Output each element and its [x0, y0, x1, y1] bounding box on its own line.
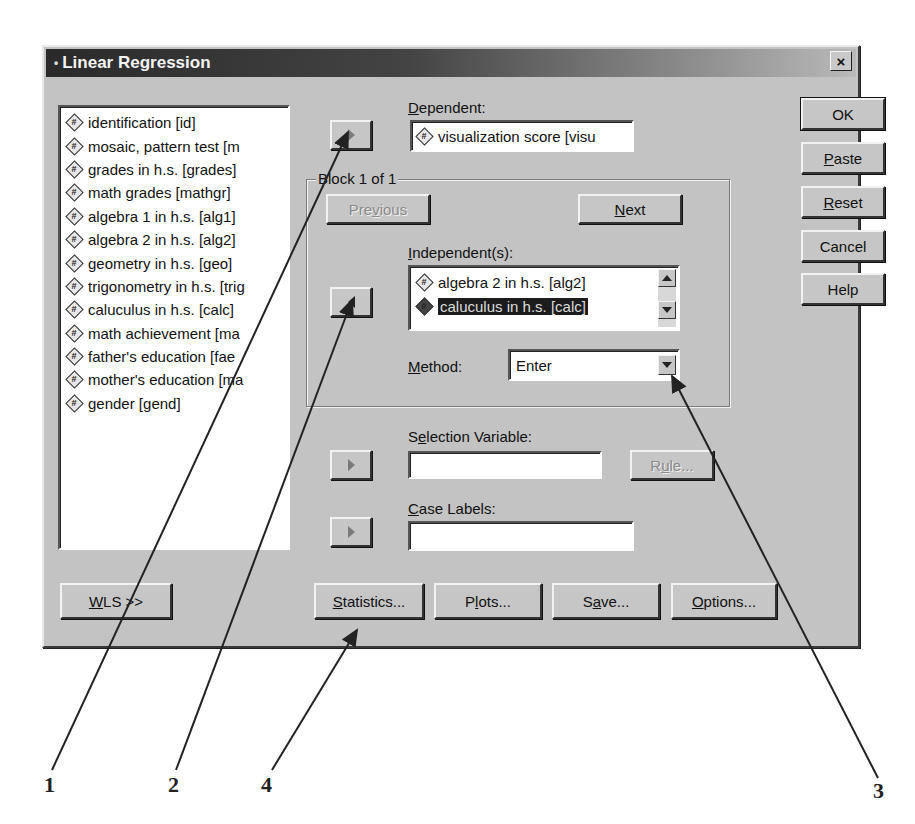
scroll-down-button[interactable]: [658, 301, 676, 319]
method-dropdown-button[interactable]: [658, 355, 676, 375]
method-label: Method:: [408, 358, 462, 375]
independents-label: Independent(s):: [408, 244, 513, 261]
rule-button[interactable]: Rule...: [630, 450, 714, 480]
method-select[interactable]: Enter: [508, 349, 680, 381]
numeric-scale-icon: #: [66, 302, 82, 318]
numeric-scale-icon: #: [66, 372, 82, 388]
arrow-left-icon: [348, 296, 355, 308]
callout-1: 1: [44, 772, 55, 798]
numeric-scale-icon: #: [66, 395, 82, 411]
variable-list-item[interactable]: #algebra 1 in h.s. [alg1]: [62, 205, 286, 228]
previous-button[interactable]: Previous: [326, 194, 430, 224]
independents-scrollbar[interactable]: [658, 269, 676, 327]
numeric-scale-icon: #: [66, 208, 82, 224]
plots-button[interactable]: Plots...: [434, 583, 542, 619]
numeric-scale-icon: #: [66, 349, 82, 365]
numeric-scale-icon: #: [66, 115, 82, 131]
cancel-button[interactable]: Cancel: [801, 230, 885, 262]
arrow-right-icon: [348, 459, 355, 471]
callout-3: 3: [873, 778, 884, 804]
move-to-dependent-button[interactable]: [330, 120, 372, 150]
help-button[interactable]: Help: [801, 273, 885, 305]
numeric-scale-icon: #: [66, 278, 82, 294]
variable-list-item[interactable]: #gender [gend]: [62, 392, 286, 415]
chevron-down-icon: [662, 362, 672, 368]
reset-button[interactable]: Reset: [801, 186, 885, 218]
arrow-right-icon: [348, 129, 355, 141]
move-from-independents-button[interactable]: [330, 287, 372, 317]
move-to-case-labels-button[interactable]: [330, 517, 372, 547]
variable-list-item[interactable]: #caluculus in h.s. [calc]: [62, 298, 286, 321]
numeric-scale-icon: #: [66, 185, 82, 201]
independents-list[interactable]: #algebra 2 in h.s. [alg2]#caluculus in h…: [408, 265, 680, 331]
move-to-selection-variable-button[interactable]: [330, 450, 372, 480]
variable-list-item[interactable]: #algebra 2 in h.s. [alg2]: [62, 228, 286, 251]
options-button[interactable]: Options...: [671, 583, 777, 619]
variable-list-item[interactable]: #geometry in h.s. [geo]: [62, 251, 286, 274]
numeric-scale-icon: #: [66, 138, 82, 154]
variable-list[interactable]: #identification [id]#mosaic, pattern tes…: [58, 105, 290, 550]
scroll-up-button[interactable]: [658, 269, 676, 287]
close-icon: ×: [837, 53, 846, 70]
numeric-scale-icon: #: [66, 325, 82, 341]
ok-button[interactable]: OK: [801, 98, 885, 130]
close-button[interactable]: ×: [830, 51, 852, 71]
next-button[interactable]: Next: [578, 194, 682, 224]
numeric-scale-icon: #: [66, 255, 82, 271]
variable-list-item[interactable]: #mosaic, pattern test [m: [62, 134, 286, 157]
case-labels-label: Case Labels:: [408, 500, 496, 517]
variable-list-item[interactable]: #mother's education [ma: [62, 368, 286, 391]
numeric-scale-icon: #: [66, 161, 82, 177]
selection-variable-field[interactable]: [408, 451, 602, 479]
independent-list-item[interactable]: #caluculus in h.s. [calc]: [412, 294, 656, 317]
dependent-value: visualization score [visu: [438, 128, 596, 145]
variable-list-item[interactable]: #grades in h.s. [grades]: [62, 158, 286, 181]
callout-2: 2: [168, 772, 179, 798]
arrow-up-icon: [662, 275, 672, 281]
numeric-scale-icon: #: [416, 275, 432, 291]
variable-list-item[interactable]: #math achievement [ma: [62, 322, 286, 345]
wls-button[interactable]: WLS >>: [60, 583, 172, 619]
arrow-down-icon: [662, 307, 672, 313]
case-labels-field[interactable]: [408, 521, 634, 551]
callout-4: 4: [261, 772, 272, 798]
block-legend: Block 1 of 1: [316, 170, 398, 187]
arrow-right-icon: [348, 526, 355, 538]
window-title: Linear Regression: [62, 53, 210, 73]
variable-list-item[interactable]: #identification [id]: [62, 111, 286, 134]
statistics-button[interactable]: Statistics...: [314, 583, 424, 619]
variable-list-item[interactable]: #father's education [fae: [62, 345, 286, 368]
numeric-scale-icon: #: [416, 298, 432, 314]
numeric-scale-icon: #: [66, 232, 82, 248]
method-value: Enter: [516, 357, 552, 374]
system-menu-icon[interactable]: •: [54, 56, 58, 70]
linear-regression-dialog: • Linear Regression × #identification [i…: [42, 45, 860, 648]
independent-list-item[interactable]: #algebra 2 in h.s. [alg2]: [412, 271, 656, 294]
numeric-scale-icon: #: [416, 128, 432, 144]
save-button[interactable]: Save...: [552, 583, 660, 619]
title-bar[interactable]: • Linear Regression: [46, 49, 856, 77]
selection-variable-label: Selection Variable:: [408, 428, 532, 445]
paste-button[interactable]: Paste: [801, 142, 885, 174]
dependent-field[interactable]: # visualization score [visu: [410, 120, 634, 152]
variable-list-item[interactable]: #math grades [mathgr]: [62, 181, 286, 204]
dependent-label: Dependent:: [408, 99, 486, 116]
variable-list-item[interactable]: #trigonometry in h.s. [trig: [62, 275, 286, 298]
